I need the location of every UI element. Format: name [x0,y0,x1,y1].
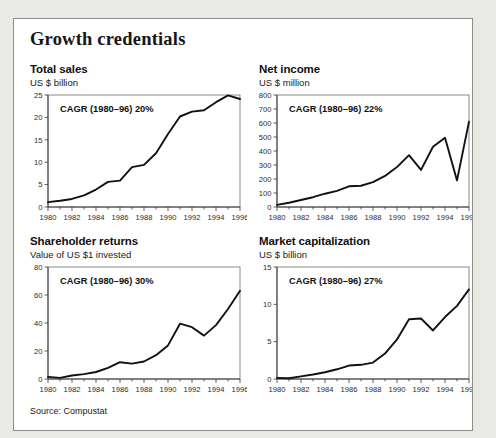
svg-text:1982: 1982 [64,385,81,394]
svg-text:1990: 1990 [389,385,406,394]
svg-text:1988: 1988 [365,213,382,222]
svg-text:1986: 1986 [112,213,129,222]
svg-text:1996: 1996 [232,213,247,222]
svg-text:40: 40 [34,319,42,328]
chart-shareholder-returns: Shareholder returns Value of US $1 inves… [18,235,247,407]
svg-text:20: 20 [34,113,42,122]
chart-market-capitalization: Market capitalization US $ billion 05101… [247,235,473,407]
svg-text:1994: 1994 [208,385,225,394]
chart-total-sales: Total sales US $ billion 051015202519801… [18,63,247,235]
svg-text:1982: 1982 [293,213,310,222]
chart-title: Market capitalization [259,235,370,247]
chart-plot: 0510152025198019821984198619881990199219… [18,89,247,235]
svg-text:25: 25 [34,91,42,100]
svg-text:1988: 1988 [365,385,382,394]
chart-plot: 0204060801980198219841986198819901992199… [18,261,247,407]
svg-text:1986: 1986 [341,385,358,394]
svg-text:1992: 1992 [184,385,201,394]
svg-text:CAGR (1980–96) 20%: CAGR (1980–96) 20% [60,104,154,114]
chart-subtitle: US $ million [259,77,310,88]
svg-text:200: 200 [259,175,272,184]
svg-text:1996: 1996 [232,385,247,394]
svg-text:1982: 1982 [64,213,81,222]
chart-subtitle: US $ billion [30,77,78,88]
svg-text:1986: 1986 [341,213,358,222]
svg-text:1980: 1980 [40,385,57,394]
charts-grid: Total sales US $ billion 051015202519801… [14,63,472,408]
source-note: Source: Compustat [30,406,107,416]
svg-text:1984: 1984 [88,385,105,394]
svg-text:80: 80 [34,263,42,272]
svg-text:1986: 1986 [112,385,129,394]
svg-text:1984: 1984 [88,213,105,222]
svg-text:0: 0 [267,375,271,384]
svg-text:1992: 1992 [413,385,430,394]
chart-plot: 0510151980198219841986198819901992199419… [247,261,473,407]
svg-text:300: 300 [259,161,272,170]
svg-text:15: 15 [34,136,42,145]
svg-text:1988: 1988 [136,213,153,222]
svg-text:600: 600 [259,119,272,128]
exhibit-panel: Growth credentials Total sales US $ bill… [13,18,473,431]
svg-text:20: 20 [34,347,42,356]
svg-text:1990: 1990 [389,213,406,222]
svg-text:10: 10 [263,300,271,309]
svg-text:1994: 1994 [437,385,454,394]
svg-text:1992: 1992 [413,213,430,222]
svg-text:400: 400 [259,147,272,156]
svg-text:1988: 1988 [136,385,153,394]
chart-title: Net income [259,63,320,75]
svg-text:5: 5 [38,180,42,189]
svg-text:1990: 1990 [160,385,177,394]
svg-text:15: 15 [263,263,271,272]
chart-title: Shareholder returns [30,235,138,247]
svg-text:CAGR (1980–96) 27%: CAGR (1980–96) 27% [289,276,383,286]
svg-text:1992: 1992 [184,213,201,222]
chart-title: Total sales [30,63,88,75]
svg-text:1982: 1982 [293,385,310,394]
svg-text:1996: 1996 [461,213,473,222]
svg-text:0: 0 [38,375,42,384]
svg-text:60: 60 [34,291,42,300]
svg-text:10: 10 [34,158,42,167]
svg-text:CAGR (1980–96) 22%: CAGR (1980–96) 22% [289,104,383,114]
svg-text:1980: 1980 [40,213,57,222]
page-title: Growth credentials [30,29,186,50]
svg-text:1980: 1980 [269,385,286,394]
svg-text:1984: 1984 [317,385,334,394]
svg-text:100: 100 [259,189,272,198]
chart-plot: 0100200300400500600700800198019821984198… [247,89,473,235]
svg-text:700: 700 [259,105,272,114]
svg-text:1996: 1996 [461,385,473,394]
svg-text:1994: 1994 [437,213,454,222]
svg-text:500: 500 [259,133,272,142]
chart-subtitle: Value of US $1 invested [30,249,131,260]
svg-text:CAGR (1980–96) 30%: CAGR (1980–96) 30% [60,276,154,286]
svg-text:0: 0 [38,203,42,212]
svg-text:5: 5 [267,337,271,346]
svg-text:1980: 1980 [269,213,286,222]
svg-text:0: 0 [267,203,271,212]
svg-text:1984: 1984 [317,213,334,222]
chart-subtitle: US $ billion [259,249,307,260]
svg-text:1990: 1990 [160,213,177,222]
svg-text:1994: 1994 [208,213,225,222]
chart-net-income: Net income US $ million 0100200300400500… [247,63,473,235]
svg-text:800: 800 [259,91,272,100]
